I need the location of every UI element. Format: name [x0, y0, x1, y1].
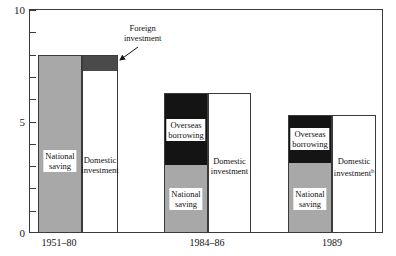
y-tick-mark [30, 211, 36, 212]
segment-domestic-investment [83, 71, 117, 232]
label-line-2: investment [81, 165, 118, 175]
y-tick-mark [30, 77, 36, 78]
x-axis-label-1984-86: 1984–86 [190, 237, 225, 249]
bar-1989-national-saving: Overseas borrowing National saving [288, 115, 332, 233]
label-line-2: saving [49, 161, 71, 171]
chart-figure: 10 5 0 [0, 0, 396, 256]
label-line-1: Overseas [170, 120, 201, 130]
label-line-2: borrowing [168, 130, 203, 140]
y-tick-label-0: 0 [20, 228, 26, 239]
bar-1989-domestic-investment: Domestic investmentb [332, 115, 376, 233]
bar-1951-80-domestic-investment: Domestic investment [82, 55, 118, 233]
bar-1984-86-domestic-investment: Domestic investment [208, 93, 251, 234]
x-axis-label-1951-80: 1951–80 [42, 237, 77, 249]
y-tick-label-10: 10 [14, 5, 25, 16]
y-tick-mark [30, 188, 36, 189]
label-line-1: Domestic [213, 156, 246, 166]
bar-1951-80-national-saving: National saving [38, 55, 82, 233]
bar-label-overseas-borrowing: Overseas borrowing [290, 128, 329, 150]
label-line-2: borrowing [292, 139, 327, 149]
bar-label-overseas-borrowing: Overseas borrowing [166, 119, 205, 141]
plot-area: 10 5 0 [29, 9, 383, 233]
label-line-2: investment [334, 168, 371, 178]
segment-foreign-investment [83, 56, 117, 72]
label-line-2: saving [299, 199, 321, 209]
bar-label-domestic-investment: Domestic investment [209, 155, 250, 177]
annotation-line-1: Foreign [129, 23, 155, 33]
label-line-1: National [45, 151, 74, 161]
y-tick-mark [30, 122, 36, 123]
footnote-marker-b: b [371, 167, 374, 173]
bar-label-national-saving: National saving [43, 150, 76, 172]
x-axis-label-1989: 1989 [322, 237, 342, 249]
bar-label-national-saving: National saving [169, 188, 202, 210]
label-line-1: National [171, 189, 200, 199]
bar-label-domestic-investment: Domestic investment [79, 154, 120, 176]
y-tick-mark [30, 99, 36, 100]
segment-national-saving [39, 56, 81, 232]
bar-label-domestic-investment: Domestic investmentb [332, 154, 376, 179]
y-tick-label-5: 5 [20, 116, 26, 127]
annotation-foreign-investment: Foreign investment [124, 23, 161, 43]
y-tick-mark [30, 10, 36, 11]
label-line-1: National [295, 189, 324, 199]
bar-label-national-saving: National saving [293, 188, 326, 210]
y-tick-mark [30, 166, 36, 167]
label-line-1: Domestic [338, 155, 371, 165]
y-tick-mark [30, 55, 36, 56]
annotation-line-2: investment [124, 33, 161, 43]
bar-1984-86-national-saving: Overseas borrowing National saving [164, 93, 208, 234]
label-line-1: Domestic [84, 155, 117, 165]
y-tick-mark [30, 144, 36, 145]
label-line-2: investment [211, 166, 248, 176]
label-line-2: saving [175, 199, 197, 209]
y-tick-mark [30, 32, 36, 33]
label-line-1: Overseas [294, 129, 325, 139]
